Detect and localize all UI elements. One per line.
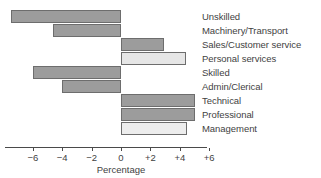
x-axis-tick: [150, 148, 151, 151]
category-label: Machinery/Transport: [202, 24, 288, 37]
bar[interactable]: [53, 24, 121, 37]
x-axis-tick: [62, 148, 63, 151]
bar[interactable]: [121, 122, 187, 135]
x-axis-tick-label: 0: [118, 152, 123, 163]
x-axis-tick: [180, 148, 181, 151]
bar[interactable]: [62, 80, 121, 93]
x-axis-tick-label: +4: [174, 152, 185, 163]
category-label: Admin/Clerical: [202, 80, 263, 93]
category-label: Personal services: [202, 52, 276, 65]
category-label: Professional: [202, 108, 254, 121]
x-axis-tick: [209, 148, 210, 151]
bar-row: [0, 52, 200, 65]
bar[interactable]: [121, 52, 186, 65]
bar[interactable]: [11, 10, 121, 23]
x-axis-tick: [92, 148, 93, 151]
x-axis-tick-label: +2: [145, 152, 156, 163]
bar-row: [0, 80, 200, 93]
bar-row: [0, 122, 200, 135]
category-label: Sales/Customer service: [202, 38, 301, 51]
bar-row: [0, 94, 200, 107]
bar-row: [0, 108, 200, 121]
bar[interactable]: [121, 38, 164, 51]
category-label-list: UnskilledMachinery/TransportSales/Custom…: [202, 0, 321, 140]
bar-row: [0, 24, 200, 37]
x-axis-line: [5, 147, 207, 148]
x-axis-tick: [121, 148, 122, 151]
x-axis-tick: [33, 148, 34, 151]
bar-chart: UnskilledMachinery/TransportSales/Custom…: [0, 0, 321, 178]
bar-row: [0, 38, 200, 51]
x-axis-tick-label: −4: [57, 152, 68, 163]
bar-row: [0, 10, 200, 23]
category-label: Technical: [202, 94, 241, 107]
bar[interactable]: [121, 94, 195, 107]
x-axis-tick-label: −2: [86, 152, 97, 163]
x-axis-tick-label: +6: [204, 152, 215, 163]
category-label: Management: [202, 122, 257, 135]
category-label: Unskilled: [202, 10, 240, 23]
plot-area: [0, 0, 200, 140]
bar-row: [0, 66, 200, 79]
category-label: Skilled: [202, 66, 230, 79]
bar[interactable]: [121, 108, 195, 121]
bar[interactable]: [33, 66, 121, 79]
x-axis-title: Percentage: [97, 164, 146, 175]
x-axis-tick-label: −6: [27, 152, 38, 163]
